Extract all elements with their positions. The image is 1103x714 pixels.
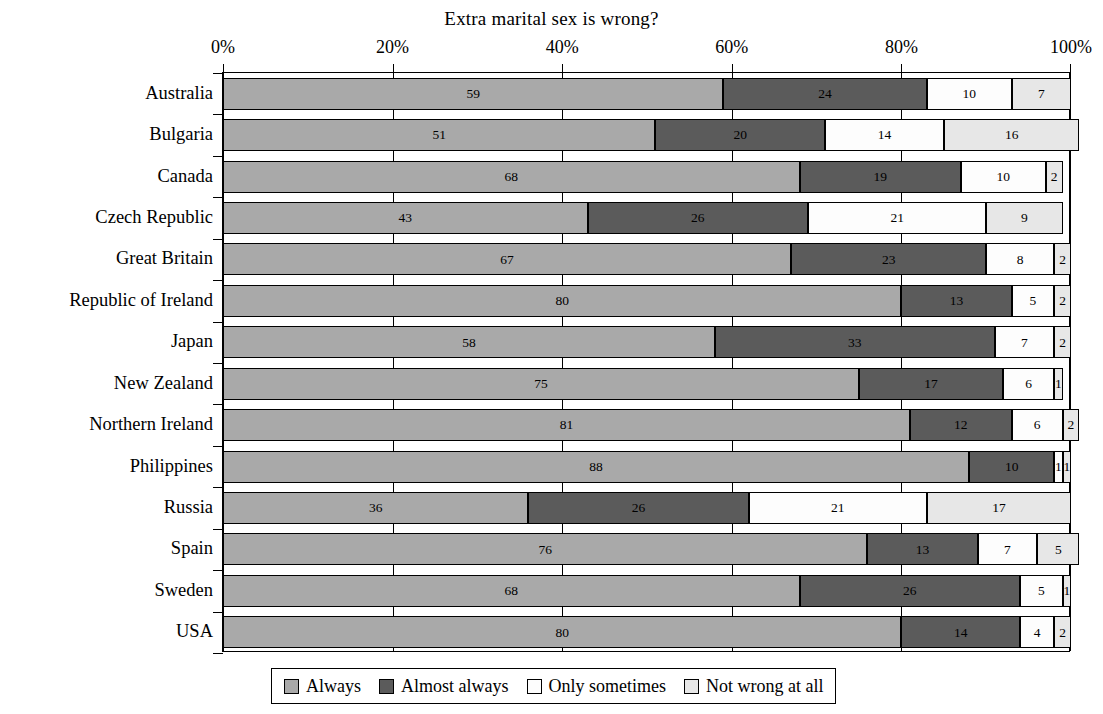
bar-segment-value: 7 bbox=[1021, 336, 1028, 350]
bar-segment-not-wrong-at-all[interactable]: 17 bbox=[927, 492, 1071, 524]
bar-segment-almost-always[interactable]: 12 bbox=[910, 409, 1012, 441]
bar-segment-only-sometimes[interactable]: 7 bbox=[978, 533, 1037, 565]
y-axis-category-great-britain: Great Britain bbox=[0, 249, 213, 268]
bar-row: 5924107 bbox=[223, 78, 1069, 110]
bar-segment-only-sometimes[interactable]: 21 bbox=[808, 202, 986, 234]
bar-segment-almost-always[interactable]: 26 bbox=[528, 492, 748, 524]
bar-segment-value: 51 bbox=[432, 128, 446, 142]
bar-segment-almost-always[interactable]: 24 bbox=[723, 78, 927, 110]
bar-segment-only-sometimes[interactable]: 4 bbox=[1020, 616, 1054, 648]
bar-segment-only-sometimes[interactable]: 10 bbox=[927, 78, 1012, 110]
bar-segment-not-wrong-at-all[interactable]: 2 bbox=[1063, 409, 1080, 441]
x-axis-tick-60 bbox=[732, 64, 733, 73]
bar-segment-almost-always[interactable]: 26 bbox=[800, 575, 1020, 607]
bar-segment-not-wrong-at-all[interactable]: 1 bbox=[1054, 368, 1062, 400]
bar-segment-value: 76 bbox=[538, 543, 552, 557]
legend-label: Not wrong at all bbox=[706, 677, 823, 695]
bar-segment-always[interactable]: 68 bbox=[223, 161, 800, 193]
bar-segment-always[interactable]: 51 bbox=[223, 119, 655, 151]
bar-segment-only-sometimes[interactable]: 5 bbox=[1020, 575, 1062, 607]
bar-segment-almost-always[interactable]: 14 bbox=[901, 616, 1020, 648]
bar-segment-not-wrong-at-all[interactable]: 2 bbox=[1054, 616, 1071, 648]
bar-segment-not-wrong-at-all[interactable]: 2 bbox=[1054, 285, 1071, 317]
bar-segment-only-sometimes[interactable]: 10 bbox=[961, 161, 1046, 193]
bar-segment-value: 5 bbox=[1055, 543, 1062, 557]
bar-segment-always[interactable]: 58 bbox=[223, 326, 715, 358]
bar-segment-not-wrong-at-all[interactable]: 16 bbox=[944, 119, 1080, 151]
bar-segment-value: 6 bbox=[1034, 418, 1041, 432]
bar-segment-value: 36 bbox=[369, 501, 383, 515]
bar-segment-not-wrong-at-all[interactable]: 7 bbox=[1012, 78, 1071, 110]
legend-swatch-icon bbox=[527, 679, 542, 694]
bar-segment-always[interactable]: 88 bbox=[223, 451, 969, 483]
bar-segment-value: 2 bbox=[1059, 336, 1066, 350]
bar-segment-always[interactable]: 80 bbox=[223, 616, 901, 648]
x-axis-label-40: 40% bbox=[546, 37, 579, 58]
bar-segment-almost-always[interactable]: 17 bbox=[859, 368, 1003, 400]
bar-segment-value: 80 bbox=[555, 294, 569, 308]
bar-segment-almost-always[interactable]: 19 bbox=[800, 161, 961, 193]
y-axis-tick-12 bbox=[213, 570, 223, 571]
legend-item-almost-always[interactable]: Almost always bbox=[379, 677, 509, 695]
legend-item-only-sometimes[interactable]: Only sometimes bbox=[527, 677, 667, 695]
bar-segment-almost-always[interactable]: 13 bbox=[867, 533, 977, 565]
bar-segment-almost-always[interactable]: 13 bbox=[901, 285, 1011, 317]
bar-segment-value: 7 bbox=[1004, 543, 1011, 557]
bar-segment-value: 88 bbox=[589, 460, 603, 474]
bar-segment-only-sometimes[interactable]: 21 bbox=[749, 492, 927, 524]
bar-segment-only-sometimes[interactable]: 14 bbox=[825, 119, 944, 151]
bar-segment-value: 26 bbox=[632, 501, 646, 515]
bar-segment-value: 17 bbox=[992, 501, 1006, 515]
bar-segment-value: 59 bbox=[466, 87, 480, 101]
legend-label: Only sometimes bbox=[549, 677, 667, 695]
bar-segment-always[interactable]: 59 bbox=[223, 78, 723, 110]
bar-segment-almost-always[interactable]: 20 bbox=[655, 119, 825, 151]
bar-segment-only-sometimes[interactable]: 1 bbox=[1054, 451, 1062, 483]
bar-segment-value: 67 bbox=[500, 253, 514, 267]
bar-segment-almost-always[interactable]: 33 bbox=[715, 326, 995, 358]
bar-segment-not-wrong-at-all[interactable]: 2 bbox=[1054, 243, 1071, 275]
y-axis-category-usa: USA bbox=[0, 622, 213, 641]
bar-segment-always[interactable]: 80 bbox=[223, 285, 901, 317]
bar-segment-not-wrong-at-all[interactable]: 2 bbox=[1046, 161, 1063, 193]
bar-segment-always[interactable]: 75 bbox=[223, 368, 859, 400]
bar-segment-almost-always[interactable]: 26 bbox=[588, 202, 808, 234]
bar-row: 583372 bbox=[223, 326, 1069, 358]
bar-segment-only-sometimes[interactable]: 6 bbox=[1003, 368, 1054, 400]
bar-segment-value: 24 bbox=[818, 87, 832, 101]
y-axis-category-northern-ireland: Northern Ireland bbox=[0, 415, 213, 434]
bar-segment-not-wrong-at-all[interactable]: 1 bbox=[1063, 451, 1071, 483]
bar-segment-value: 19 bbox=[873, 170, 887, 184]
bar-segment-only-sometimes[interactable]: 8 bbox=[986, 243, 1054, 275]
bar-segment-almost-always[interactable]: 23 bbox=[791, 243, 986, 275]
bar-segment-only-sometimes[interactable]: 5 bbox=[1012, 285, 1054, 317]
bar-segment-always[interactable]: 67 bbox=[223, 243, 791, 275]
bar-segment-not-wrong-at-all[interactable]: 9 bbox=[986, 202, 1062, 234]
legend-swatch-icon bbox=[379, 679, 394, 694]
bar-segment-value: 43 bbox=[399, 211, 413, 225]
bar-row: 801352 bbox=[223, 285, 1069, 317]
bar-segment-only-sometimes[interactable]: 6 bbox=[1012, 409, 1063, 441]
bar-segment-always[interactable]: 68 bbox=[223, 575, 800, 607]
bar-segment-not-wrong-at-all[interactable]: 1 bbox=[1063, 575, 1071, 607]
y-axis-category-canada: Canada bbox=[0, 167, 213, 186]
bar-segment-value: 8 bbox=[1017, 253, 1024, 267]
bar-segment-almost-always[interactable]: 10 bbox=[969, 451, 1054, 483]
bar-row: 51201416 bbox=[223, 119, 1069, 151]
bar-segment-value: 2 bbox=[1051, 170, 1058, 184]
bar-row: 672382 bbox=[223, 243, 1069, 275]
bar-segment-always[interactable]: 36 bbox=[223, 492, 528, 524]
y-axis-tick-9 bbox=[213, 446, 223, 447]
bar-segment-only-sometimes[interactable]: 7 bbox=[995, 326, 1054, 358]
bar-segment-not-wrong-at-all[interactable]: 2 bbox=[1054, 326, 1071, 358]
bar-segment-value: 1 bbox=[1055, 460, 1062, 474]
bar-segment-always[interactable]: 43 bbox=[223, 202, 588, 234]
bar-segment-always[interactable]: 81 bbox=[223, 409, 910, 441]
legend-item-not-wrong-at-all[interactable]: Not wrong at all bbox=[684, 677, 823, 695]
bar-row: 751761 bbox=[223, 368, 1069, 400]
bar-segment-not-wrong-at-all[interactable]: 5 bbox=[1037, 533, 1079, 565]
bar-segment-always[interactable]: 76 bbox=[223, 533, 867, 565]
legend-item-always[interactable]: Always bbox=[284, 677, 361, 695]
y-axis-category-japan: Japan bbox=[0, 332, 213, 351]
y-axis-category-republic-of-ireland: Republic of Ireland bbox=[0, 291, 213, 310]
